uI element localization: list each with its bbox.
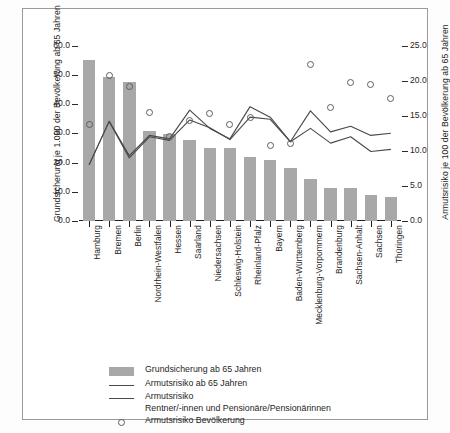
legend-item: Armutsrisiko ab 65 Jahren [109,379,429,393]
x-axis-category-label: Bayern [274,225,284,252]
x-axis-category-label: Thüringen [394,225,404,263]
y-axis-right-tick-mark [402,151,408,152]
line-series [79,31,401,221]
y-axis-right-tick-label: 5.0 [410,180,422,190]
figure: Grundsicherung je 1.000 der Bevölkerung … [0,0,450,433]
y-axis-left-tick-mark [72,46,78,47]
y-axis-left-tick-mark [72,75,78,76]
legend-swatch-icon [109,367,134,376]
y-axis-left-tick-label: 20.0 [53,157,70,167]
x-axis-category-label: Hessen [173,225,183,254]
y-axis-left-tick-label: 0.0 [58,215,70,225]
y-axis-right-tick-mark [402,46,408,47]
y-axis-left-tick-label: 50.0 [53,69,70,79]
legend-key-line [109,379,135,390]
line-path [89,107,391,165]
y-axis-left-tick-label: 60.0 [53,40,70,50]
x-axis-category-label: Baden-Württemberg [294,225,304,301]
legend-key-line [109,392,135,403]
x-axis-category-label: Bremen [113,225,123,255]
line-path [89,117,391,165]
x-axis-category-label: Berlin [133,225,143,247]
scatter-marker [106,72,113,79]
y-axis-left-tick-mark [72,163,78,164]
x-axis-category-label: Nordrhein-Westfalen [153,225,163,303]
legend-label: Armutsrisiko ab 65 Jahren [145,378,247,390]
scatter-marker [126,83,133,90]
y-axis-left-tick-label: 30.0 [53,127,70,137]
plot-area: 0.010.020.030.040.050.060.0 0.05.010.015… [79,31,401,221]
legend-item: Grundsicherung ab 65 Jahren [109,365,429,379]
legend-item: Armutsrisiko Bevölkerung [109,416,429,430]
y-axis-right-tick-label: 20.0 [410,75,427,85]
y-axis-right-tick-mark [402,221,408,222]
y-axis-left-tick-label: 40.0 [53,98,70,108]
y-axis-left-tick-mark [72,133,78,134]
x-axis-category-label: Rheinland-Pfalz [253,225,263,285]
x-axis-category-label: Niedersachsen [213,225,223,282]
legend-label-secondline: Rentner/-innen und Pensionäre/Pensionäri… [145,403,331,413]
x-axis-category-label: Schleswig-Holstein [233,225,243,297]
legend-label: Armutsrisiko Bevölkerung [145,415,245,427]
y-axis-right-tick-label: 25.0 [410,40,427,50]
x-axis-category-label: Sachsen-Anhalt [354,225,364,285]
chart-legend: Grundsicherung ab 65 JahrenArmutsrisiko … [109,365,429,430]
legend-circle-icon [118,419,125,426]
y-axis-right-tick-label: 10.0 [410,145,427,155]
y-axis-left-tick-mark [72,104,78,105]
legend-label: Grundsicherung ab 65 Jahren [145,364,261,376]
y-axis-right-tick-label: 15.0 [410,110,427,120]
y-axis-right-tick-mark [402,116,408,117]
y-axis-left-tick-mark [72,221,78,222]
scatter-marker [86,121,93,128]
legend-key-swatch [109,365,135,376]
legend-item: ArmutsrisikoRentner/-innen und Pensionär… [109,392,429,416]
x-axis-category-label: Saarland [193,225,203,259]
legend-label: ArmutsrisikoRentner/-innen und Pensionär… [145,391,331,414]
x-axis-category-label: Sachsen [374,225,384,258]
x-axis-category-label: Mecklenburg-Vorpommern [314,225,324,325]
y-axis-right-tick-mark [402,186,408,187]
y-axis-left-tick-mark [72,192,78,193]
legend-line-icon [109,385,134,386]
y-axis-left-tick-label: 10.0 [53,186,70,196]
scatter-marker [327,104,334,111]
y-axis-right-title: Armutsrisiko je 100 der Bevölkerung ab 6… [440,22,450,222]
chart-frame: Grundsicherung je 1.000 der Bevölkerung … [22,8,428,420]
legend-key-circle [109,416,135,427]
legend-line-icon [109,398,134,399]
x-axis-category-label: Hamburg [92,225,102,260]
scatter-marker [307,61,314,68]
x-axis-category-label: Brandenburg [334,225,344,274]
y-axis-right-tick-label: 0.0 [410,215,422,225]
scatter-marker [247,114,254,121]
x-axis-category-labels: HamburgBremenBerlinNordrhein-WestfalenHe… [79,225,401,343]
y-axis-right-tick-mark [402,81,408,82]
